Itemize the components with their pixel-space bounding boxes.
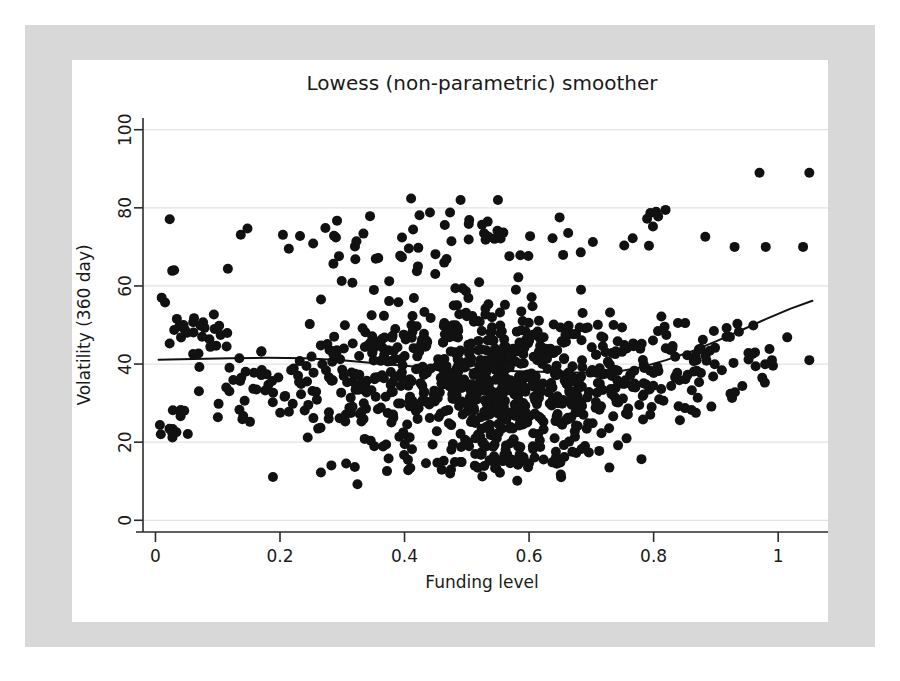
data-point: [698, 335, 708, 345]
data-point: [296, 389, 306, 399]
data-point: [764, 344, 774, 354]
data-point: [635, 344, 645, 354]
data-point: [564, 385, 574, 395]
data-point: [527, 301, 537, 311]
data-point: [351, 385, 361, 395]
data-point: [369, 285, 379, 295]
data-point: [406, 193, 416, 203]
chart-title: Lowess (non-parametric) smoother: [307, 71, 659, 95]
data-point: [473, 463, 483, 473]
data-point: [608, 411, 618, 421]
data-point: [295, 231, 305, 241]
data-point: [316, 423, 326, 433]
data-point: [653, 366, 663, 376]
data-point: [341, 458, 351, 468]
data-point: [224, 363, 234, 373]
data-point: [248, 384, 258, 394]
data-point: [336, 388, 346, 398]
data-point: [308, 413, 318, 423]
data-point: [413, 261, 423, 271]
data-point: [400, 351, 410, 361]
data-point: [523, 372, 533, 382]
data-point: [172, 314, 182, 324]
data-point: [576, 247, 586, 257]
data-point: [463, 293, 473, 303]
data-point: [530, 453, 540, 463]
y-tick-label: 60: [115, 275, 135, 297]
data-point: [328, 349, 338, 359]
data-point: [576, 285, 586, 295]
data-point: [334, 251, 344, 261]
data-point: [179, 406, 189, 416]
data-point: [303, 432, 313, 442]
data-point: [514, 371, 524, 381]
data-point: [350, 369, 360, 379]
data-point: [527, 292, 537, 302]
data-point: [305, 319, 315, 329]
data-point: [307, 352, 317, 362]
data-point: [760, 378, 770, 388]
data-point: [619, 240, 629, 250]
data-point: [213, 412, 223, 422]
data-point: [165, 338, 175, 348]
data-point: [559, 452, 569, 462]
data-point: [513, 394, 523, 404]
data-point: [376, 403, 386, 413]
data-point: [710, 359, 720, 369]
data-point: [350, 462, 360, 472]
data-point: [286, 365, 296, 375]
data-point: [381, 440, 391, 450]
data-point: [535, 379, 545, 389]
data-point: [275, 408, 285, 418]
data-point: [470, 418, 480, 428]
data-point: [477, 220, 487, 230]
data-point: [687, 385, 697, 395]
data-point-outlier: [169, 265, 179, 275]
data-point: [661, 330, 671, 340]
x-tick-label: 1: [773, 546, 784, 566]
data-point: [371, 254, 381, 264]
data-point: [603, 357, 613, 367]
data-point: [528, 444, 538, 454]
data-point: [393, 297, 403, 307]
data-point: [419, 307, 429, 317]
data-point: [474, 277, 484, 287]
data-point: [405, 395, 415, 405]
data-point: [691, 408, 701, 418]
data-point: [388, 410, 398, 420]
data-point: [398, 427, 408, 437]
data-point: [446, 236, 456, 246]
data-point: [530, 408, 540, 418]
y-axis-title: Volatility (360 day): [74, 244, 94, 405]
data-point: [573, 421, 583, 431]
data-point: [436, 378, 446, 388]
data-point: [288, 399, 298, 409]
data-point: [660, 322, 670, 332]
data-point: [340, 320, 350, 330]
data-point: [539, 424, 549, 434]
data-point-outlier: [767, 355, 777, 365]
data-point: [452, 390, 462, 400]
data-point: [155, 420, 165, 430]
data-point: [425, 413, 435, 423]
data-point: [534, 393, 544, 403]
data-point: [222, 341, 232, 351]
data-point: [223, 264, 233, 274]
data-point: [417, 335, 427, 345]
x-tick-label: 0: [150, 546, 161, 566]
data-point: [430, 269, 440, 279]
data-point-outlier: [755, 168, 765, 178]
data-point: [737, 381, 747, 391]
data-point: [520, 412, 530, 422]
data-point: [194, 362, 204, 372]
data-point: [340, 416, 350, 426]
data-point: [352, 479, 362, 489]
data-point: [478, 437, 488, 447]
data-point: [367, 310, 377, 320]
data-point: [280, 391, 290, 401]
y-tick-label: 100: [115, 113, 135, 145]
data-point: [725, 389, 735, 399]
data-point: [630, 379, 640, 389]
data-point: [628, 233, 638, 243]
data-point: [396, 381, 406, 391]
